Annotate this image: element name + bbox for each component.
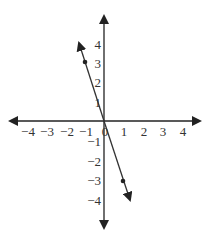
x-tick-labels: −4 −3 −2 −1 0 1 2 3 4 [21, 124, 187, 139]
data-point [121, 179, 126, 184]
coordinate-graph: −4 −3 −2 −1 0 1 2 3 4 4 3 2 1 −1 −2 −3 −… [0, 0, 215, 242]
x-tick-label: −3 [40, 124, 54, 139]
y-tick-label: −4 [87, 193, 101, 208]
x-tick-label: 1 [121, 124, 128, 139]
x-tick-label: 3 [160, 124, 167, 139]
y-tick-label: 3 [95, 56, 102, 71]
y-tick-label: −1 [87, 134, 101, 149]
x-tick-label: 4 [180, 124, 187, 139]
y-tick-label: −3 [87, 173, 101, 188]
y-tick-label: −2 [87, 154, 101, 169]
y-tick-label: 4 [95, 37, 102, 52]
x-tick-label: −2 [60, 124, 74, 139]
x-tick-label: −4 [21, 124, 35, 139]
y-tick-labels: 4 3 2 1 −1 −2 −3 −4 [87, 37, 101, 208]
data-point [83, 60, 88, 65]
y-tick-label: 2 [95, 75, 102, 90]
x-tick-label: 2 [141, 124, 148, 139]
